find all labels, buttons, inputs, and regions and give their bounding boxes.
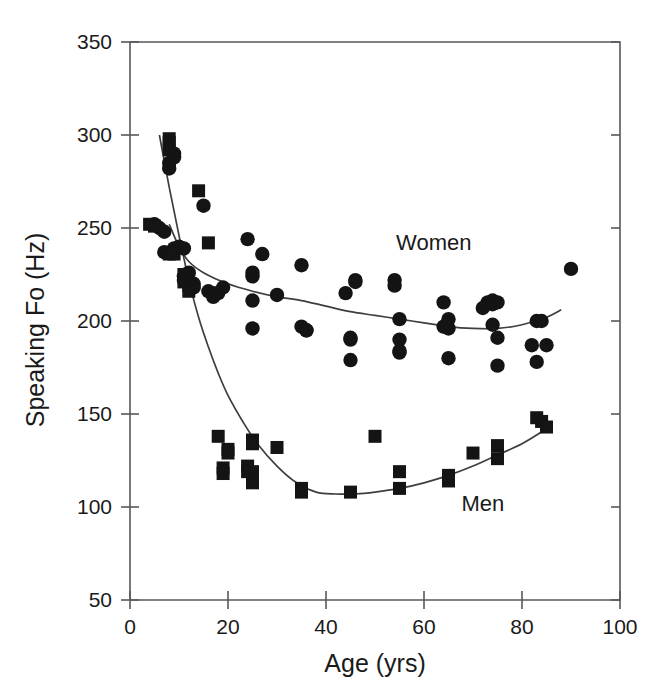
data-point-men bbox=[491, 452, 504, 465]
y-tick-label: 200 bbox=[77, 309, 112, 332]
data-point-women bbox=[525, 338, 539, 352]
series-label-men: Men bbox=[461, 491, 504, 516]
data-point-women bbox=[441, 312, 455, 326]
data-point-women bbox=[299, 323, 313, 337]
data-point-men bbox=[491, 439, 504, 452]
data-point-men bbox=[192, 184, 205, 197]
x-tick-label: 40 bbox=[314, 615, 337, 638]
data-points-women bbox=[147, 146, 578, 372]
data-point-men bbox=[182, 285, 195, 298]
data-point-women bbox=[294, 258, 308, 272]
x-axis-tick-labels: 020406080100 bbox=[124, 615, 637, 638]
x-tick-label: 60 bbox=[412, 615, 435, 638]
figure-container: 50100150200250300350 020406080100 WomenM… bbox=[0, 0, 666, 696]
data-point-men bbox=[163, 143, 176, 156]
data-point-women bbox=[245, 293, 259, 307]
data-point-women bbox=[338, 286, 352, 300]
data-point-women bbox=[240, 232, 254, 246]
data-point-women bbox=[343, 353, 357, 367]
data-point-women bbox=[245, 321, 259, 335]
data-point-men bbox=[168, 248, 181, 261]
y-tick-label: 100 bbox=[77, 495, 112, 518]
data-point-women bbox=[387, 278, 401, 292]
data-point-men bbox=[163, 132, 176, 145]
data-point-men bbox=[202, 236, 215, 249]
data-point-women bbox=[534, 314, 548, 328]
data-point-women bbox=[348, 275, 362, 289]
data-point-women bbox=[485, 318, 499, 332]
y-tick-label: 50 bbox=[89, 588, 112, 611]
data-point-men bbox=[222, 447, 235, 460]
data-point-men bbox=[148, 220, 161, 233]
data-point-men bbox=[246, 437, 259, 450]
data-point-women bbox=[539, 338, 553, 352]
data-point-men bbox=[217, 467, 230, 480]
data-point-women bbox=[436, 295, 450, 309]
data-point-women bbox=[564, 262, 578, 276]
y-axis-title: Speaking Fo (Hz) bbox=[21, 233, 49, 428]
data-point-men bbox=[442, 474, 455, 487]
x-tick-label: 0 bbox=[124, 615, 136, 638]
data-point-women bbox=[255, 247, 269, 261]
data-point-men bbox=[295, 486, 308, 499]
data-point-men bbox=[393, 482, 406, 495]
scatter-plot: 50100150200250300350 020406080100 WomenM… bbox=[0, 0, 666, 696]
data-point-men bbox=[540, 421, 553, 434]
y-tick-label: 350 bbox=[77, 30, 112, 53]
x-tick-label: 100 bbox=[602, 615, 637, 638]
data-point-men bbox=[246, 476, 259, 489]
data-point-women bbox=[490, 358, 504, 372]
trend-curve bbox=[169, 224, 561, 329]
data-point-women bbox=[490, 295, 504, 309]
data-point-men bbox=[369, 430, 382, 443]
data-point-women bbox=[196, 198, 210, 212]
y-tick-label: 300 bbox=[77, 123, 112, 146]
data-point-women bbox=[490, 331, 504, 345]
data-point-men bbox=[467, 447, 480, 460]
x-tick-label: 80 bbox=[510, 615, 533, 638]
data-point-men bbox=[344, 486, 357, 499]
data-point-women bbox=[245, 265, 259, 279]
data-point-men bbox=[393, 465, 406, 478]
x-tick-label: 20 bbox=[216, 615, 239, 638]
y-tick-label: 250 bbox=[77, 216, 112, 239]
data-points-men bbox=[143, 132, 553, 498]
data-point-women bbox=[530, 355, 544, 369]
data-point-women bbox=[441, 351, 455, 365]
data-point-women bbox=[343, 332, 357, 346]
series-label-women: Women bbox=[396, 230, 471, 255]
data-point-women bbox=[216, 280, 230, 294]
data-point-women bbox=[392, 345, 406, 359]
data-point-men bbox=[271, 441, 284, 454]
data-point-men bbox=[212, 430, 225, 443]
y-axis-tick-labels: 50100150200250300350 bbox=[77, 30, 112, 611]
x-axis-title: Age (yrs) bbox=[324, 649, 425, 677]
data-point-women bbox=[392, 312, 406, 326]
y-tick-label: 150 bbox=[77, 402, 112, 425]
data-point-women bbox=[270, 288, 284, 302]
